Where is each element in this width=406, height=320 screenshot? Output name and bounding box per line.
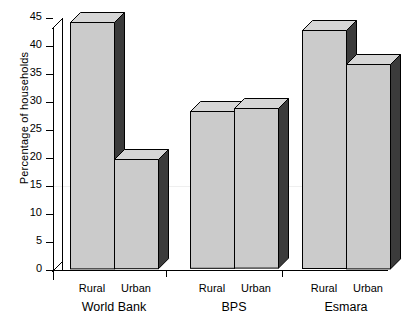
- y-tick-line: [46, 242, 53, 243]
- group-label-esmara: Esmara: [282, 300, 406, 314]
- y-tick-label: 30: [30, 94, 42, 106]
- bar-side-face: [159, 149, 169, 268]
- y-tick-40: 40: [46, 46, 53, 47]
- x-axis-line: [52, 270, 388, 271]
- category-label-world-bank-urban: Urban: [108, 282, 164, 294]
- y-tick-line: [46, 74, 53, 75]
- y-tick-line: [46, 130, 53, 131]
- bar-top-face: [235, 99, 289, 109]
- bar-front-face: [71, 22, 115, 268]
- x-group-separator-2: [282, 270, 283, 277]
- y-tick-label: 40: [30, 38, 42, 50]
- y-tick-line: [46, 158, 53, 159]
- x-group-separator-1: [166, 270, 167, 277]
- y-tick-label: 35: [30, 66, 42, 78]
- bar-front-face: [347, 64, 391, 268]
- bar-top-face: [115, 149, 169, 159]
- y-tick-line: [46, 46, 53, 47]
- bar-top-face: [71, 12, 125, 22]
- y-axis-line-back: [53, 27, 54, 280]
- group-label-world-bank: World Bank: [50, 300, 178, 314]
- bar-world-bank-rural: [70, 14, 114, 270]
- bar-front-face: [191, 112, 235, 269]
- plot-area: 051015202530354045: [62, 18, 388, 271]
- y-tick-30: 30: [46, 102, 53, 103]
- y-tick-5: 5: [46, 242, 53, 243]
- y-tick-15: 15: [46, 186, 53, 187]
- y-axis-line: [62, 18, 63, 271]
- bar-bps-rural: [190, 103, 234, 270]
- bar-shape: [346, 54, 402, 270]
- bar-esmara-urban: [346, 56, 390, 270]
- y-tick-20: 20: [46, 158, 53, 159]
- y-tick-line: [46, 186, 53, 187]
- y-tick-line: [46, 102, 53, 103]
- y-tick-35: 35: [46, 74, 53, 75]
- bar-shape: [234, 98, 290, 270]
- bar-side-face: [391, 54, 401, 268]
- bar-world-bank-urban: [114, 151, 158, 270]
- y-tick-label: 0: [36, 262, 42, 274]
- group-label-bps: BPS: [170, 300, 298, 314]
- bar-side-face: [279, 99, 289, 269]
- bar-esmara-rural: [302, 22, 346, 270]
- y-axis-top-connector: [52, 18, 64, 29]
- y-tick-label: 15: [30, 178, 42, 190]
- y-tick-label: 25: [30, 122, 42, 134]
- bar-shape: [114, 149, 170, 270]
- y-tick-label: 20: [30, 150, 42, 162]
- bar-front-face: [303, 31, 347, 269]
- category-label-esmara-urban: Urban: [340, 282, 396, 294]
- category-label-bps-urban: Urban: [228, 282, 284, 294]
- y-tick-line: [46, 214, 53, 215]
- y-tick-25: 25: [46, 130, 53, 131]
- bar-front-face: [235, 109, 279, 269]
- y-tick-label: 45: [30, 10, 42, 22]
- y-tick-label: 10: [30, 206, 42, 218]
- bar-top-face: [303, 21, 357, 31]
- bar-top-face: [347, 54, 401, 64]
- bar-front-face: [115, 159, 159, 268]
- bar-bps-urban: [234, 100, 278, 270]
- y-tick-10: 10: [46, 214, 53, 215]
- y-tick-label: 5: [36, 234, 42, 246]
